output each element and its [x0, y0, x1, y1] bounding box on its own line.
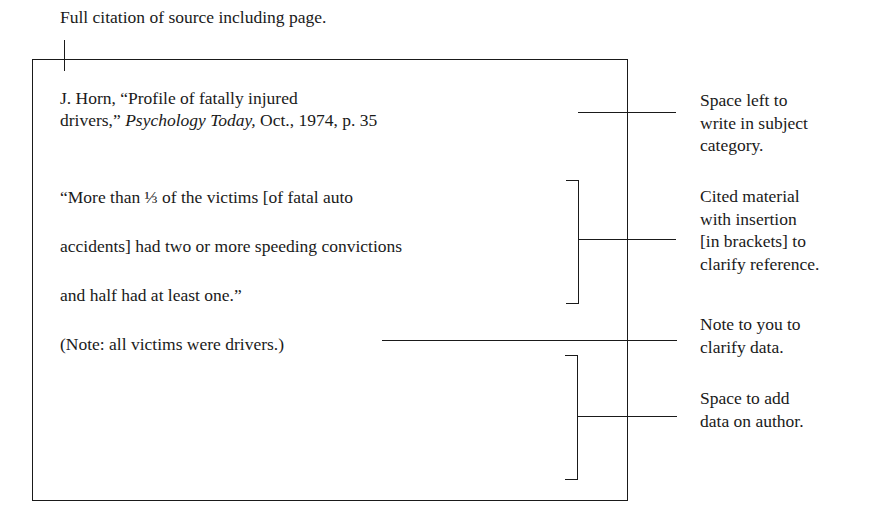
- citation-line-2: drivers,” Psychology Today, Oct., 1974, …: [60, 109, 377, 131]
- clarifying-note: (Note: all victims were drivers.): [60, 333, 284, 355]
- quote-line-1: “More than ⅓ of the victims [of fatal au…: [60, 186, 353, 208]
- top-caption: Full citation of source including page.: [60, 6, 326, 28]
- citation-line-2-pre: drivers,”: [60, 110, 125, 130]
- annotation-author-data: Space to add data on author.: [700, 387, 804, 432]
- annotation-subject-category: Space left to write in subject category.: [700, 89, 808, 157]
- quote-bracket: [566, 180, 579, 304]
- author-bracket: [565, 355, 578, 480]
- annotation-note-to-you: Note to you to clarify data.: [700, 313, 801, 358]
- quote-pointer-line: [578, 239, 676, 240]
- quote-line-2: accidents] had two or more speeding conv…: [60, 235, 402, 257]
- annotation-cited-material: Cited material with insertion [in bracke…: [700, 185, 819, 275]
- note-pointer-line: [382, 340, 677, 341]
- subject-category-pointer-line: [578, 112, 676, 113]
- quote-line-3: and half had at least one.”: [60, 284, 242, 306]
- citation-line-1: J. Horn, “Profile of fatally injured: [60, 87, 298, 109]
- author-pointer-line: [577, 416, 677, 417]
- journal-title: Psychology Today,: [125, 110, 256, 130]
- citation-line-2-post: Oct., 1974, p. 35: [256, 110, 378, 130]
